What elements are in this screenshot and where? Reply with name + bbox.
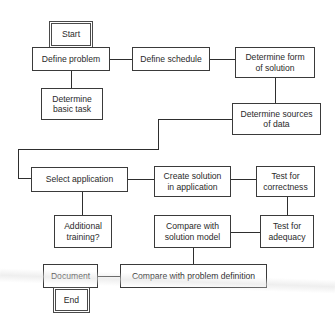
- start-label: Start: [62, 29, 80, 40]
- additional-training-label: Additional training?: [61, 221, 105, 242]
- define-problem-node: Define problem: [32, 47, 110, 71]
- test-correctness-node: Test for correctness: [256, 166, 315, 197]
- edge-sources-left-segment: [158, 119, 232, 120]
- determine-form-label: Determine form of solution: [244, 52, 306, 73]
- select-application-label: Select application: [46, 174, 113, 185]
- edge-determine-form-sources: [275, 78, 276, 103]
- determine-sources-node: Determine sources of data: [232, 103, 321, 135]
- test-correctness-label: Test for correctness: [263, 171, 308, 192]
- test-adequacy-label: Test for adequacy: [268, 221, 305, 242]
- determine-basic-task-node: Determine basic task: [41, 88, 103, 120]
- edge-select-additional-training: [82, 192, 83, 215]
- edge-sources-down-segment: [158, 119, 159, 150]
- start-node: Start: [49, 21, 93, 48]
- determine-basic-task-label: Determine basic task: [50, 94, 94, 115]
- edge-adequacy-compare-model: [231, 232, 260, 233]
- select-application-node: Select application: [31, 167, 128, 192]
- additional-training-node: Additional training?: [54, 215, 112, 248]
- edge-compare-model-problem-def: [193, 248, 194, 264]
- determine-sources-label: Determine sources of data: [239, 109, 314, 130]
- edge-sources-select-application: [18, 178, 31, 179]
- edge-create-test-correctness: [231, 179, 256, 180]
- edge-define-problem-basic-task: [71, 71, 72, 88]
- compare-problem-definition-label: Compare with problem definition: [132, 271, 255, 282]
- determine-form-node: Determine form of solution: [235, 47, 315, 78]
- create-solution-label: Create solution in application: [163, 171, 222, 192]
- document-label: Document: [51, 271, 90, 282]
- flowchart-canvas: Start Define problem Define schedule Det…: [0, 0, 335, 333]
- compare-solution-model-label: Compare with solution model: [163, 221, 222, 242]
- end-node: End: [53, 287, 90, 313]
- edge-problem-def-document: [98, 276, 120, 277]
- end-label: End: [64, 295, 79, 306]
- edge-define-problem-define-schedule: [110, 59, 133, 60]
- edge-define-schedule-determine-form: [210, 59, 235, 60]
- edge-correctness-adequacy: [287, 197, 288, 215]
- test-adequacy-node: Test for adequacy: [260, 215, 314, 248]
- compare-solution-model-node: Compare with solution model: [154, 215, 231, 248]
- define-schedule-label: Define schedule: [140, 54, 202, 65]
- define-schedule-node: Define schedule: [132, 47, 210, 71]
- edge-select-create: [128, 179, 154, 180]
- create-solution-node: Create solution in application: [154, 166, 231, 197]
- define-problem-label: Define problem: [42, 54, 100, 65]
- compare-problem-definition-node: Compare with problem definition: [120, 264, 267, 288]
- document-node: Document: [43, 264, 98, 288]
- edge-sources-across-segment: [18, 149, 159, 150]
- edge-sources-drop-segment: [18, 149, 19, 179]
